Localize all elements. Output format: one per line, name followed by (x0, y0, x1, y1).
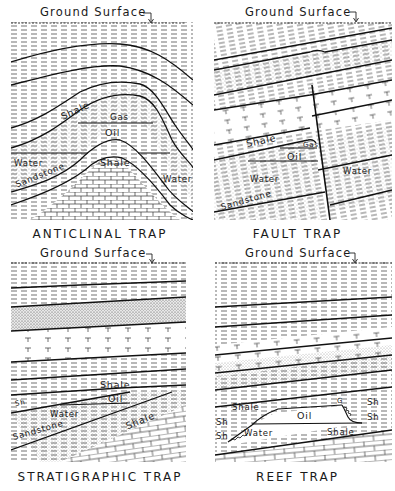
panel-title-reef: REEF TRAP (200, 470, 395, 484)
label-water-left: Water (250, 174, 279, 184)
label-shale-core: Shale (100, 157, 130, 168)
panel-title-stratigraphic: STRATIGRAPHIC TRAP (0, 470, 200, 484)
label-sh-left-1: Sh (216, 417, 228, 427)
panel-reef-trap: Ground Surface (200, 245, 395, 491)
panel-fault-trap: Ground Surface (200, 0, 395, 245)
label-sh-right-2: Sh (367, 412, 379, 422)
label-water: Water (244, 428, 273, 438)
label-shale-top: Shale (100, 379, 130, 390)
label-gas: Gas (303, 141, 319, 149)
panel-stratigraphic-trap: Ground Surface (0, 245, 200, 491)
label-oil: Oil (297, 410, 312, 421)
label-oil: Oil (105, 127, 120, 138)
label-sh-left-2: Sh (216, 431, 228, 441)
label-shale-left: Shale (232, 402, 260, 412)
label-water: Water (50, 409, 79, 419)
stratigraphic-cross-section (0, 245, 200, 491)
label-gas-g: G (337, 397, 343, 405)
label-water-right: Water (343, 166, 372, 176)
label-shale-bottom: Shale (327, 427, 355, 437)
label-gas: Gas (110, 112, 129, 122)
panel-anticlinal-trap: Ground Surface (0, 0, 200, 245)
anticlinal-cross-section (0, 0, 200, 245)
label-water-right: Water (163, 174, 192, 184)
reef-cross-section (200, 245, 395, 491)
label-oil: Oil (108, 393, 123, 404)
panel-title-anticlinal: ANTICLINAL TRAP (0, 227, 200, 241)
label-water-left: Water (14, 158, 43, 168)
panel-title-fault: FAULT TRAP (200, 227, 395, 241)
label-oil: Oil (287, 151, 302, 162)
label-sh-right-1: Sh (367, 397, 379, 407)
